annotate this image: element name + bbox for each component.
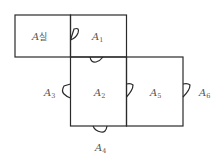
room-a2-label: A2: [94, 88, 105, 100]
room-a1-label: A1: [92, 32, 103, 44]
door-icon: [93, 126, 107, 132]
door-icon: [183, 84, 190, 97]
room-suffix: 1: [99, 36, 103, 44]
area-a4-label: A4: [95, 143, 106, 155]
room-suffix: 6: [206, 92, 210, 100]
door-icon: [63, 84, 71, 98]
room-suffix: 2: [101, 92, 105, 100]
room-suffix: 4: [102, 147, 106, 155]
room-a5-label: A5: [150, 88, 161, 100]
door-icon: [71, 29, 79, 41]
floor-plan-drawing: [0, 0, 221, 157]
room-a-sil-label: A실: [32, 32, 47, 42]
area-a3-label: A3: [44, 88, 55, 100]
door-icon: [90, 57, 103, 62]
door-icon: [127, 84, 134, 97]
room-suffix: 5: [157, 92, 161, 100]
room-suffix: 3: [51, 92, 55, 100]
room-suffix: 실: [39, 32, 47, 42]
area-a6-label: A6: [199, 88, 210, 100]
